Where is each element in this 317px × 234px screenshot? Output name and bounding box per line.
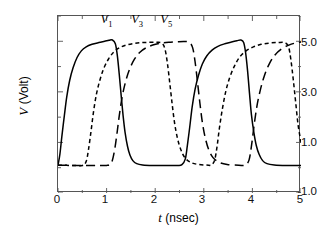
waveform-canvas	[58, 16, 301, 193]
x-tick-label: 2	[145, 194, 163, 206]
x-tick-label: 5	[291, 194, 309, 206]
y-axis-label: V (Volt)	[16, 51, 32, 141]
series-label-variable: V	[131, 12, 139, 26]
plot-area: V1 V3 V5	[57, 15, 300, 192]
chart-figure: 5.0 3.0 1.0 -1.0 0 1 2 3 4 5 V (Volt) t …	[0, 0, 317, 234]
series-curve-v1	[58, 40, 301, 166]
series-curve-v5	[58, 42, 301, 166]
x-axis-unit: (nsec)	[165, 211, 198, 225]
x-tick-label: 3	[193, 194, 211, 206]
y-axis-variable: V	[16, 108, 31, 116]
x-tick-label: 0	[48, 194, 66, 206]
x-tick-label: 4	[242, 194, 260, 206]
y-axis-unit: (Volt)	[17, 76, 31, 104]
series-label-variable: V	[160, 12, 168, 26]
series-label-v1: V1	[101, 13, 113, 28]
series-label-v5: V5	[160, 13, 172, 28]
series-label-subscript: 3	[139, 18, 143, 28]
series-label-subscript: 1	[108, 18, 112, 28]
series-curve-v3	[58, 42, 301, 166]
x-tick-label: 1	[96, 194, 114, 206]
series-label-subscript: 5	[168, 18, 172, 28]
x-axis-label: t (nsec)	[57, 210, 300, 226]
series-label-v3: V3	[131, 13, 143, 28]
